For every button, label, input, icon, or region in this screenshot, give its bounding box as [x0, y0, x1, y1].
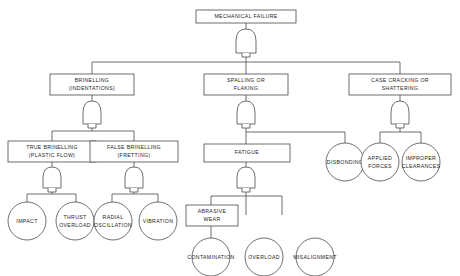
node-contamination[interactable]: CONTAMINATION	[187, 238, 234, 276]
node-disbonding[interactable]: DISBONDING	[326, 143, 364, 181]
or-gate-case-cracking	[391, 101, 409, 128]
node-brinelling-label-line1: BRINELLING	[75, 77, 109, 83]
or-gate-brinelling	[83, 101, 101, 128]
node-applied-forces-label-line1: APPLIED	[368, 155, 392, 161]
node-applied-forces-label-line2: FORCES	[368, 163, 392, 169]
node-overload-label: OVERLOAD	[248, 254, 280, 260]
node-case-cracking[interactable]: CASE CRACKING OR SHATTERING	[349, 74, 451, 95]
edge-spalling-bus	[246, 126, 345, 144]
node-false-brinelling-label-line2: (FRETTING)	[118, 152, 151, 158]
edge-case-cracking-bus	[380, 126, 421, 144]
or-gate-false-brinelling	[125, 167, 143, 192]
or-gate-mechanical-failure	[236, 29, 256, 57]
node-thrust-overload-label-line2: OVERLOAD	[59, 222, 91, 228]
node-true-brinelling-label-line2: (PLASTIC FLOW)	[29, 152, 75, 158]
node-spalling-label-line2: FLAKING	[234, 85, 259, 91]
node-abrasive-wear-label-line1: ABRASIVE	[198, 208, 227, 214]
node-misalignment-label: MISALIGNMENT	[293, 254, 337, 260]
or-gate-spalling	[237, 101, 255, 128]
node-impact[interactable]: IMPACT	[8, 202, 46, 240]
node-brinelling[interactable]: BRINELLING (INDENTATIONS)	[50, 74, 134, 95]
or-gate-fatigue	[237, 167, 255, 192]
node-radial-oscillation[interactable]: RADIAL OSCILLATION	[94, 202, 132, 240]
node-contamination-label: CONTAMINATION	[187, 254, 234, 260]
node-case-cracking-label-line1: CASE CRACKING OR	[371, 77, 429, 83]
node-vibration-label: VIBRATION	[143, 218, 174, 224]
node-true-brinelling[interactable]: TRUE BRINELLING (PLASTIC FLOW)	[8, 141, 96, 162]
node-spalling-label-line1: SPALLING OR	[227, 77, 265, 83]
node-fatigue[interactable]: FATIGUE	[204, 144, 290, 162]
or-gate-true-brinelling	[43, 167, 61, 192]
node-applied-forces[interactable]: APPLIED FORCES	[361, 143, 399, 181]
node-thrust-overload-label-line1: THRUST	[63, 214, 87, 220]
node-radial-oscillation-label-line1: RADIAL	[103, 214, 124, 220]
node-mechanical-failure[interactable]: MECHANICAL FAILURE	[196, 10, 296, 23]
node-impact-label: IMPACT	[16, 218, 38, 224]
edge-root-bus	[92, 55, 400, 74]
node-false-brinelling[interactable]: FALSE BRINELLING (FRETTING)	[90, 141, 178, 162]
node-brinelling-label-line2: (INDENTATIONS)	[69, 85, 115, 91]
node-radial-oscillation-label-line2: OSCILLATION	[94, 222, 132, 228]
node-false-brinelling-label-line1: FALSE BRINELLING	[107, 144, 161, 150]
node-improper-clearances-label-line2: CLEARANCES	[402, 163, 441, 169]
node-misalignment[interactable]: MISALIGNMENT	[293, 238, 337, 276]
node-spalling-or-flaking[interactable]: SPALLING OR FLAKING	[204, 74, 288, 95]
fault-tree-diagram: MECHANICAL FAILURE BRINELLING (INDENTATI…	[0, 0, 460, 276]
node-improper-clearances[interactable]: IMPROPER CLEARANCES	[402, 143, 441, 181]
node-abrasive-wear-label-line2: WEAR	[204, 216, 221, 222]
node-improper-clearances-label-line1: IMPROPER	[406, 155, 436, 161]
node-overload[interactable]: OVERLOAD	[245, 238, 283, 276]
node-case-cracking-label-line2: SHATTERING	[382, 85, 419, 91]
node-abrasive-wear[interactable]: ABRASIVE WEAR	[186, 205, 238, 226]
node-vibration[interactable]: VIBRATION	[139, 202, 177, 240]
node-disbonding-label: DISBONDING	[327, 159, 363, 165]
node-fatigue-label: FATIGUE	[235, 149, 259, 155]
node-mechanical-failure-label: MECHANICAL FAILURE	[214, 13, 277, 19]
node-thrust-overload[interactable]: THRUST OVERLOAD	[56, 202, 94, 240]
node-true-brinelling-label-line1: TRUE BRINELLING	[26, 144, 78, 150]
